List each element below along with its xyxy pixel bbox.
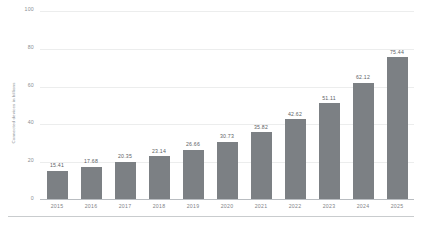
x-axis-tick-label: 2023	[312, 203, 346, 209]
bar[interactable]	[251, 132, 272, 200]
y-axis-tick-label: 20	[28, 157, 34, 163]
y-axis-tick-label: 60	[28, 82, 34, 88]
bar-group[interactable]: 30.73	[210, 11, 244, 200]
x-axis-tick-label: 2019	[176, 203, 210, 209]
bar[interactable]	[319, 103, 340, 200]
bar[interactable]	[81, 167, 102, 200]
x-axis-tick-label: 2016	[74, 203, 108, 209]
bar-group[interactable]: 75.44	[380, 11, 414, 200]
x-axis-tick-label: 2025	[380, 203, 414, 209]
bar[interactable]	[183, 150, 204, 200]
bars-layer: 15.4117.6820.3523.1426.6630.7335.8242.62…	[40, 11, 414, 200]
x-axis-tick-label: 2022	[278, 203, 312, 209]
bar[interactable]	[149, 156, 170, 200]
bar[interactable]	[217, 142, 238, 200]
bar-group[interactable]: 35.82	[244, 11, 278, 200]
bar-value-label: 75.44	[390, 49, 404, 55]
x-axis-tick-labels: 2015201620172018201920202021202220232024…	[40, 203, 414, 209]
bar[interactable]	[353, 83, 374, 200]
footer-divider	[8, 216, 414, 217]
bar-group[interactable]: 26.66	[176, 11, 210, 200]
bar-group[interactable]: 17.68	[74, 11, 108, 200]
bar-value-label: 20.35	[118, 153, 132, 159]
bar[interactable]	[47, 171, 68, 200]
bar-chart-figure: Connected devices in billions 1008060402…	[0, 0, 422, 225]
bar-value-label: 42.62	[288, 111, 302, 117]
y-axis-tick-label: 100	[25, 6, 34, 12]
bar-group[interactable]: 20.35	[108, 11, 142, 200]
y-axis-tick-label: 0	[31, 195, 34, 201]
x-axis-tick-label: 2018	[142, 203, 176, 209]
x-axis-baseline	[40, 199, 414, 200]
y-axis-title: Connected devices in billions	[11, 82, 16, 143]
bar-value-label: 35.82	[254, 124, 268, 130]
x-axis-tick-label: 2015	[40, 203, 74, 209]
bar-group[interactable]: 51.11	[312, 11, 346, 200]
x-axis-tick-label: 2021	[244, 203, 278, 209]
bar-group[interactable]: 15.41	[40, 11, 74, 200]
plot-area: 100806040200 15.4117.6820.3523.1426.6630…	[40, 11, 414, 200]
bar[interactable]	[387, 57, 408, 200]
bar-value-label: 62.12	[356, 74, 370, 80]
x-axis-tick-label: 2020	[210, 203, 244, 209]
x-axis-tick-label: 2017	[108, 203, 142, 209]
y-axis-tick-label: 80	[28, 44, 34, 50]
bar-group[interactable]: 23.14	[142, 11, 176, 200]
y-axis-tick-label: 40	[28, 119, 34, 125]
bar[interactable]	[285, 119, 306, 200]
bar-value-label: 30.73	[220, 133, 234, 139]
bar-group[interactable]: 42.62	[278, 11, 312, 200]
bar-value-label: 17.68	[84, 158, 98, 164]
x-axis-tick-label: 2024	[346, 203, 380, 209]
bar-value-label: 51.11	[322, 95, 336, 101]
bar-value-label: 15.41	[50, 162, 64, 168]
bar-value-label: 23.14	[152, 148, 166, 154]
bar[interactable]	[115, 162, 136, 200]
bar-group[interactable]: 62.12	[346, 11, 380, 200]
bar-value-label: 26.66	[186, 141, 200, 147]
